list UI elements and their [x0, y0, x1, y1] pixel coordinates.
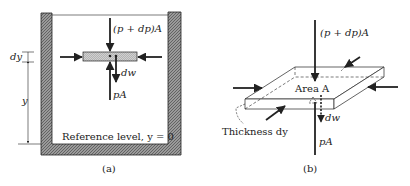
area-label: Area A — [294, 83, 330, 94]
element-center — [109, 55, 112, 58]
weight-origin — [115, 55, 118, 58]
y-label: y — [21, 95, 28, 106]
bottom-force-label: pA — [113, 89, 127, 100]
panel-b: (p + dp)A Area A pA dw Thickness dy (b) — [222, 20, 398, 174]
thickness-label: Thickness dy — [222, 126, 288, 137]
caption-a: (a) — [102, 163, 116, 174]
top-force-label: (p + dp)A — [113, 23, 162, 34]
fluid-statics-diagram: (p + dp)A pA dw dy y Reference level, y … — [0, 0, 410, 186]
caption-b: (b) — [303, 163, 317, 174]
dy-label: dy — [10, 51, 22, 62]
bottom-force-label-b: pA — [319, 136, 333, 147]
thickness-leader — [236, 104, 245, 124]
weight-label-b: dw — [325, 112, 340, 123]
panel-a: (p + dp)A pA dw dy y Reference level, y … — [10, 12, 181, 174]
reference-label: Reference level, y = 0 — [62, 131, 174, 142]
top-force-label-b: (p + dp)A — [320, 27, 369, 38]
weight-label: dw — [121, 67, 136, 78]
back-force-arrow-b — [345, 57, 360, 67]
